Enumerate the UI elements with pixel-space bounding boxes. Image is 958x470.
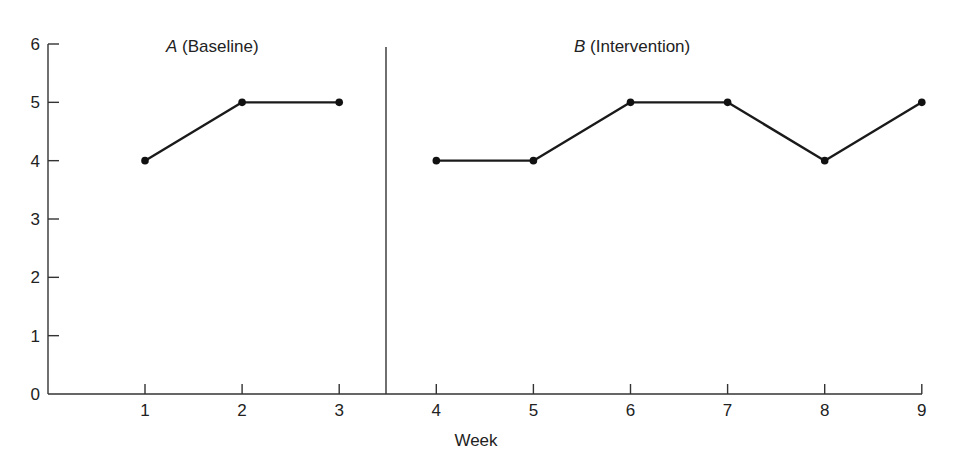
data-point	[918, 99, 926, 107]
axes	[48, 44, 922, 394]
phase-a-letter: A	[165, 37, 177, 56]
x-tick-label: 5	[529, 401, 538, 420]
data-point	[724, 99, 732, 107]
phase-b-name: (Intervention)	[585, 37, 690, 56]
phase-a-name: (Baseline)	[177, 37, 258, 56]
data-point	[335, 99, 343, 107]
y-tick-label: 0	[31, 385, 40, 404]
y-tick-label: 2	[31, 268, 40, 287]
y-tick-label: 3	[31, 210, 40, 229]
x-tick-label: 4	[432, 401, 441, 420]
y-tick-label: 6	[31, 35, 40, 54]
data-point	[627, 99, 635, 107]
x-tick-label: 3	[334, 401, 343, 420]
x-tick-label: 8	[820, 401, 829, 420]
x-ticks: 123456789	[140, 384, 926, 420]
phase-a-label: A (Baseline)	[165, 37, 259, 56]
data-series	[141, 99, 925, 165]
phase-b-label: B (Intervention)	[574, 37, 690, 56]
x-tick-label: 6	[626, 401, 635, 420]
y-tick-label: 5	[31, 93, 40, 112]
series-line	[436, 102, 922, 160]
data-point	[821, 157, 829, 165]
data-point	[238, 99, 246, 107]
y-tick-label: 4	[31, 152, 40, 171]
x-tick-label: 9	[917, 401, 926, 420]
series-line	[145, 102, 339, 160]
x-tick-label: 1	[140, 401, 149, 420]
x-axis-title: Week	[454, 431, 498, 450]
x-tick-label: 2	[237, 401, 246, 420]
x-tick-label: 7	[723, 401, 732, 420]
data-point	[530, 157, 538, 165]
data-point	[433, 157, 441, 165]
line-chart: 0123456 123456789 A (Baseline) B (Interv…	[0, 0, 958, 470]
y-ticks: 0123456	[31, 35, 59, 404]
data-point	[141, 157, 149, 165]
y-tick-label: 1	[31, 327, 40, 346]
phase-b-letter: B	[574, 37, 585, 56]
